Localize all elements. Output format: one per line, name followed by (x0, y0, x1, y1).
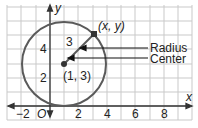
y-axis-down-arrow-icon (48, 111, 53, 117)
callout-arrows (68, 46, 148, 61)
x-tick-2: 2 (75, 107, 82, 121)
x-tick-6: 6 (132, 107, 139, 121)
y-tick-4: 4 (40, 42, 47, 56)
y-axis-up-arrow-icon (48, 5, 53, 11)
center-coordinate-label: (1, 3) (63, 69, 91, 83)
y-axis-label: y (54, 1, 62, 15)
x-axis-label: x (185, 90, 193, 104)
point-on-circle (91, 31, 97, 37)
center-callout-label: Center (150, 52, 186, 66)
circle-coordinate-diagram: y x O −2 2 4 6 8 2 4 3 (1, 3) (x, y) Rad… (0, 0, 198, 128)
point-coordinate-label: (x, y) (98, 19, 125, 33)
x-axis-right-arrow-icon (186, 104, 192, 109)
radius-value-label: 3 (66, 35, 73, 49)
x-axis-left-arrow-icon (8, 104, 14, 109)
center-point (61, 61, 67, 67)
origin-label: O (37, 107, 46, 121)
x-tick-8: 8 (161, 107, 168, 121)
y-tick-2: 2 (40, 71, 47, 85)
x-tick-4: 4 (104, 107, 111, 121)
x-tick-neg2: −2 (16, 107, 30, 121)
